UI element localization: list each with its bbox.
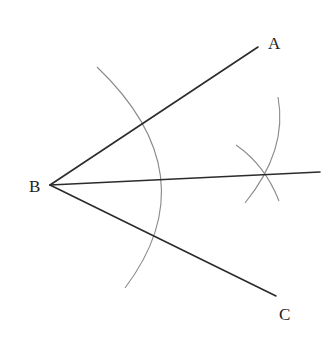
angle-bisector-diagram: A B C — [0, 0, 330, 344]
arc-centered-b — [97, 67, 161, 288]
label-b: B — [29, 177, 40, 196]
diagram-canvas: A B C — [0, 0, 330, 344]
ray-bc — [50, 185, 276, 296]
label-c: C — [279, 305, 290, 324]
ray-ba — [50, 47, 258, 185]
arc-from-ba — [245, 97, 280, 203]
arc-from-bc — [236, 145, 279, 201]
label-a: A — [268, 34, 281, 53]
ray-bisector — [50, 172, 320, 185]
